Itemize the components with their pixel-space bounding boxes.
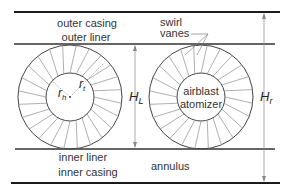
swirl-vane [149, 91, 177, 97]
airblast-label: airblast [183, 85, 218, 97]
swirl-vane [94, 97, 122, 103]
swirl-vane [181, 49, 189, 76]
h-liner-label: HL [129, 89, 143, 106]
swirl-vane [195, 121, 201, 149]
atomizer-label: atomizer [180, 98, 223, 110]
swirl-vane [153, 109, 180, 117]
inner-casing-label: inner casing [58, 166, 117, 178]
swirl-vane [201, 45, 207, 73]
swirl-vane [82, 118, 90, 145]
r-hub-label: rh [58, 86, 67, 102]
swirl-vane [63, 46, 64, 74]
swirl-vane [22, 109, 49, 117]
outer-casing-label: outer casing [57, 17, 117, 29]
swirl-vane [225, 97, 253, 103]
swirl-vane [150, 103, 178, 104]
swirl-vane [76, 120, 77, 148]
swirl-vane [224, 90, 252, 91]
swirl-vane [222, 77, 249, 85]
swirl-vane [93, 90, 121, 91]
swirl-vane [64, 121, 70, 149]
swirl-vane [70, 45, 76, 73]
swirl-vane [213, 118, 221, 145]
swirl-vane [19, 103, 47, 104]
swirl-vane [50, 49, 58, 76]
swirl-vane [194, 46, 195, 74]
swirl-vane [91, 77, 118, 85]
swirl-vane [207, 120, 208, 148]
outer-liner-label: outer liner [62, 31, 111, 43]
combustor-annulus-diagram: outer casing outer liner inner liner inn… [0, 0, 290, 195]
swirl-vane [18, 91, 46, 97]
vanes-label: vanes [160, 27, 190, 39]
inner-liner-label: inner liner [59, 151, 108, 163]
h-reference-label: Hr [260, 89, 273, 106]
annulus-label: annulus [151, 160, 190, 172]
r-tip-label: rt [79, 77, 86, 93]
right-atomizer [149, 45, 253, 149]
